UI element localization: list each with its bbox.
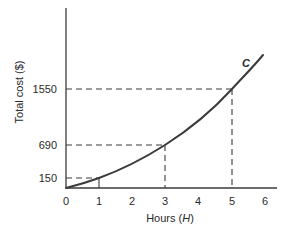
x-tick-6: 6: [262, 195, 268, 207]
y-tick-1550: 1550: [33, 83, 57, 95]
x-axis-title-suffix: ): [190, 212, 194, 224]
x-tick-3: 3: [162, 195, 168, 207]
guide-h3-690: [66, 145, 165, 188]
x-tick-5: 5: [229, 195, 235, 207]
x-axis-title-prefix: Hours (: [146, 212, 182, 224]
guide-h5-1550: [66, 89, 232, 188]
x-tick-4: 4: [195, 195, 201, 207]
x-tick-1: 1: [96, 195, 102, 207]
series-label-c: C: [242, 57, 251, 69]
x-axis-title: Hours (H): [146, 212, 194, 224]
x-axis-title-var: H: [182, 212, 190, 224]
y-tick-150: 150: [39, 172, 57, 184]
x-tick-2: 2: [129, 195, 135, 207]
x-tick-0: 0: [63, 195, 69, 207]
y-axis-title: Total cost ($): [13, 61, 25, 124]
y-tick-690: 690: [39, 139, 57, 151]
cost-chart: C 1550 690 150 0 1 2 3 4 5 6 Hours (H) T…: [0, 0, 287, 236]
